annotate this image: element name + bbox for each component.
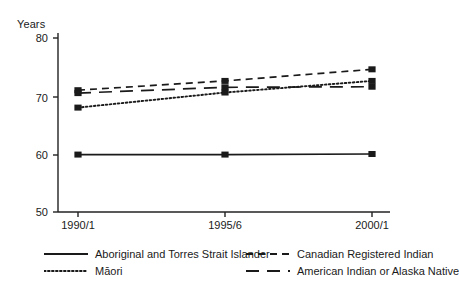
data-point-marker xyxy=(74,105,81,111)
legend-swatch-solid-icon xyxy=(44,248,88,260)
legend-column-right: Canadian Registered Indian American Indi… xyxy=(246,246,459,280)
legend-swatch-dashed-long-icon xyxy=(246,265,290,277)
data-point-marker xyxy=(368,78,375,84)
data-point-marker xyxy=(74,90,81,96)
data-point-marker xyxy=(368,66,375,72)
chart-legend: Aboriginal and Torres Strait Islander Mā… xyxy=(0,246,434,285)
legend-item-aboriginal[interactable]: Aboriginal and Torres Strait Islander xyxy=(44,246,270,261)
data-series-layer xyxy=(74,66,375,157)
plot-area xyxy=(0,0,434,240)
legend-label-canadian: Canadian Registered Indian xyxy=(297,248,433,260)
axis-ticks xyxy=(53,38,372,217)
legend-item-maori[interactable]: Māori xyxy=(44,263,270,278)
data-point-marker xyxy=(368,151,375,157)
axis-lines xyxy=(58,33,390,212)
data-point-marker xyxy=(368,84,375,90)
legend-swatch-dashed-short-icon xyxy=(246,248,290,260)
legend-item-american-indian[interactable]: American Indian or Alaska Native xyxy=(246,263,459,278)
series-0 xyxy=(74,151,375,158)
data-point-marker xyxy=(221,152,228,158)
legend-item-canadian[interactable]: Canadian Registered Indian xyxy=(246,246,459,261)
data-point-marker xyxy=(221,84,228,90)
data-point-marker xyxy=(74,152,81,158)
legend-label-maori: Māori xyxy=(95,265,123,277)
legend-column-left: Aboriginal and Torres Strait Islander Mā… xyxy=(44,246,270,280)
legend-label-american-indian: American Indian or Alaska Native xyxy=(297,265,459,277)
data-point-marker xyxy=(221,78,228,84)
legend-label-aboriginal: Aboriginal and Torres Strait Islander xyxy=(95,248,270,260)
data-point-marker xyxy=(221,90,228,96)
legend-swatch-dotted-icon xyxy=(44,265,88,277)
